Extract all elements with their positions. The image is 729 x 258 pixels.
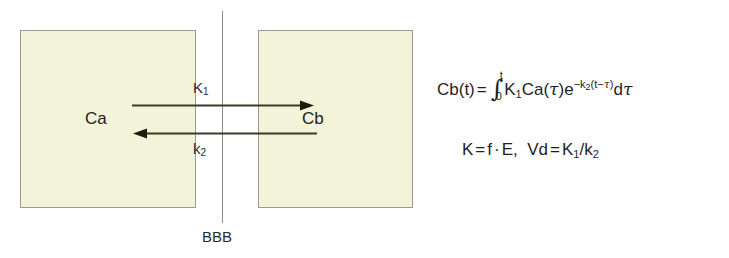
eq2-vd-numerator-subscript: 1 bbox=[573, 148, 579, 160]
eq1-tau: τ bbox=[549, 79, 558, 99]
integral-lower-limit: 0 bbox=[496, 92, 502, 101]
eq1-differential: d bbox=[614, 80, 623, 99]
eq2-e: E bbox=[502, 140, 513, 159]
eq2-f: f bbox=[487, 140, 492, 159]
rate-k2-symbol: k bbox=[193, 140, 201, 157]
eq1-exponent: −k2(t−τ) bbox=[574, 78, 614, 90]
eq1-equals: = bbox=[477, 80, 487, 99]
efflux-arrow-k2 bbox=[133, 129, 317, 139]
eq1-differential-tau: τ bbox=[623, 79, 632, 99]
transport-arrows bbox=[0, 0, 729, 258]
eq2-k-equals: = bbox=[475, 140, 485, 159]
equation-convolution: Cb(t)=∫t0K1Ca(τ)e−k2(t−τ)dτ bbox=[437, 79, 632, 100]
eq1-k-subscript: 1 bbox=[516, 88, 522, 100]
eq2-k: K bbox=[462, 140, 473, 159]
equation-relations: K=f·E, Vd=K1/k2 bbox=[462, 140, 599, 160]
eq2-vd: Vd bbox=[527, 140, 548, 159]
eq2-comma: , bbox=[513, 140, 518, 159]
rate-k1-symbol: K bbox=[193, 79, 203, 96]
eq1-exp-open: (t− bbox=[591, 78, 604, 90]
eq1-exp-close: ) bbox=[610, 78, 614, 90]
eq2-dot: · bbox=[494, 140, 500, 159]
eq1-exp-k-subscript: 2 bbox=[586, 82, 591, 92]
influx-arrow-k1 bbox=[132, 101, 314, 111]
eq1-lhs: Cb bbox=[437, 80, 459, 99]
eq1-lhs-arg: (t) bbox=[459, 80, 475, 99]
rate-k1-subscript: 1 bbox=[203, 86, 209, 97]
figure-canvas: Ca Cb BBB K1 k2 Cb(t)=∫t0K1Ca(τ)e−k2(t−τ… bbox=[0, 0, 729, 258]
eq1-exp-prefix: −k bbox=[574, 78, 586, 90]
eq2-vd-denominator-subscript: 2 bbox=[593, 148, 599, 160]
rate-constant-label-k1: K1 bbox=[193, 79, 209, 96]
rate-constant-label-k2: k2 bbox=[193, 140, 206, 157]
eq1-k: K bbox=[504, 80, 515, 99]
eq2-vd-equals: = bbox=[550, 140, 560, 159]
integral-upper-limit: t bbox=[500, 71, 503, 80]
eq1-exp-base: e bbox=[564, 80, 573, 99]
eq2-vd-numerator: K bbox=[562, 140, 573, 159]
integral-sign: ∫t0 bbox=[491, 80, 504, 99]
rate-k2-subscript: 2 bbox=[201, 147, 207, 158]
eq2-vd-denominator: k bbox=[584, 140, 593, 159]
eq1-ca: Ca bbox=[522, 80, 544, 99]
